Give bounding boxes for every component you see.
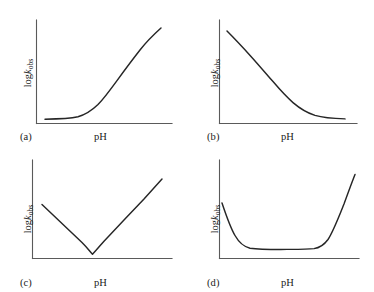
panel-c-ylabel-prefix: log	[22, 220, 33, 233]
panel-b-ylabel-subscript: obs	[213, 59, 222, 70]
panel-b-tag: (b)	[207, 132, 220, 143]
panel-d-ylabel-subscript: obs	[213, 205, 222, 216]
panel-d-ylabel-prefix: log	[209, 220, 220, 233]
panel-c-ylabel-subscript: obs	[26, 205, 35, 216]
panel-c-ylabel-symbol: k	[22, 215, 33, 220]
panel-d-tag: (d)	[207, 278, 220, 289]
panel-a-ylabel-subscript: obs	[26, 59, 35, 70]
panel-c-y-axis-label: logkobs	[23, 205, 34, 234]
panel-a-tag: (a)	[20, 132, 32, 143]
panel-c-curve	[42, 179, 162, 254]
panel-a-y-axis-label: logkobs	[23, 59, 34, 88]
panel-c: logkobs pH (c)	[0, 146, 187, 292]
ph-rate-profile-figure: logkobs pH (a) logkobs pH (b) logkobs pH…	[0, 0, 374, 292]
panel-d-ylabel-symbol: k	[209, 215, 220, 220]
panel-a-curve	[45, 28, 161, 119]
panel-d: logkobs pH (d)	[187, 146, 374, 292]
panel-b-ylabel-symbol: k	[209, 69, 220, 74]
panel-a-ylabel-prefix: log	[22, 74, 33, 87]
panel-c-tag: (c)	[20, 278, 32, 289]
panel-b-curve	[227, 31, 345, 119]
panel-b-y-axis-label: logkobs	[210, 59, 221, 88]
panel-d-y-axis-label: logkobs	[210, 205, 221, 234]
panel-a: logkobs pH (a)	[0, 0, 187, 146]
panel-a-ylabel-symbol: k	[22, 69, 33, 74]
panel-d-curve	[222, 175, 355, 250]
panel-b-ylabel-prefix: log	[209, 74, 220, 87]
panel-b: logkobs pH (b)	[187, 0, 374, 146]
